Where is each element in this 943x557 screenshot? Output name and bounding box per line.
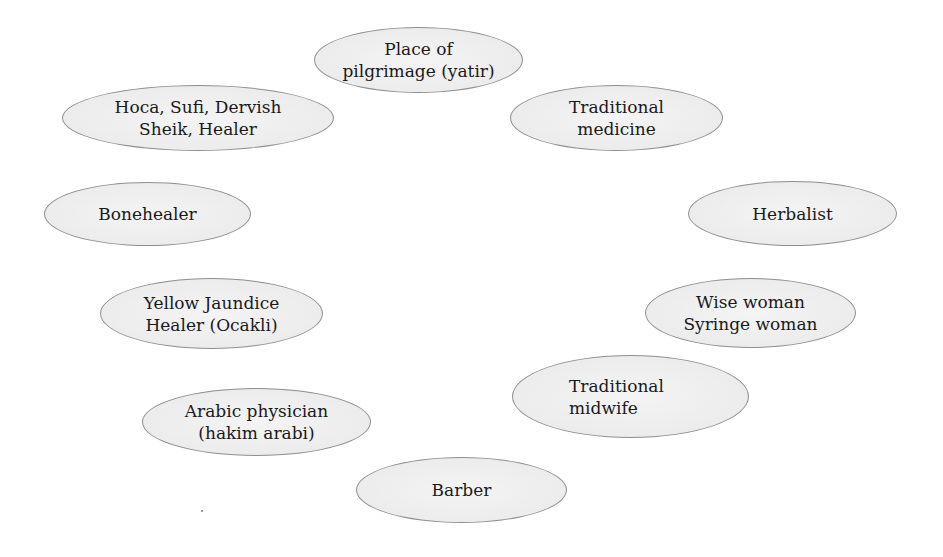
- node-label-line: Hoca, Sufi, Dervish: [115, 96, 282, 118]
- healer-types-diagram: Place of pilgrimage (yatir) Hoca, Sufi, …: [0, 0, 943, 557]
- node-label-line: Traditional: [569, 375, 664, 397]
- node-label-line: Barber: [432, 479, 492, 501]
- node-label-line: Arabic physician: [185, 400, 328, 422]
- scan-speck: [201, 510, 203, 512]
- node-traditional-medicine: Traditional medicine: [510, 85, 723, 151]
- node-label-line: Healer (Ocakli): [145, 314, 277, 336]
- node-label-line: Sheik, Healer: [139, 118, 257, 140]
- node-herbalist: Herbalist: [688, 181, 897, 246]
- node-barber: Barber: [356, 457, 567, 523]
- node-label-line: Wise woman: [696, 291, 805, 313]
- node-label-line: Bonehealer: [98, 203, 197, 225]
- node-label-line: Yellow Jaundice: [144, 292, 280, 314]
- node-wise-woman: Wise woman Syringe woman: [645, 278, 856, 348]
- node-place-of-pilgrimage: Place of pilgrimage (yatir): [314, 27, 523, 93]
- node-label-line: Syringe woman: [683, 313, 817, 335]
- node-yellow-jaundice-healer: Yellow Jaundice Healer (Ocakli): [100, 278, 323, 349]
- node-label-line: Herbalist: [752, 203, 832, 225]
- node-label-line: (hakim arabi): [198, 422, 314, 444]
- node-label-line: Traditional: [569, 96, 664, 118]
- node-label-line: pilgrimage (yatir): [342, 60, 494, 82]
- node-traditional-midwife: Traditional midwife: [512, 355, 749, 438]
- node-bonehealer: Bonehealer: [44, 182, 251, 246]
- node-label-line: midwife: [569, 397, 638, 419]
- node-label-line: medicine: [577, 118, 655, 140]
- node-hoca-sufi-dervish: Hoca, Sufi, Dervish Sheik, Healer: [62, 85, 334, 151]
- node-label-line: Place of: [384, 38, 453, 60]
- node-arabic-physician: Arabic physician (hakim arabi): [142, 388, 371, 456]
